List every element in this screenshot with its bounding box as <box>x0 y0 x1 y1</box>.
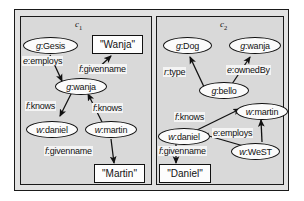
node-w-daniel2[interactable]: w:daniel <box>158 128 210 145</box>
literal-wanja[interactable]: "Wanja" <box>92 35 143 54</box>
edge-label-knows-2: f:knows <box>92 103 123 113</box>
literal-martin[interactable]: "Martin" <box>94 164 145 183</box>
edge-label-knows-1: f:knows <box>25 101 56 111</box>
edge-label-knows-3: f:knows <box>174 112 205 122</box>
node-w-west[interactable]: w:WeST <box>231 143 280 160</box>
context-label-c2: c2 <box>220 19 227 31</box>
literal-daniel[interactable]: "Daniel" <box>159 164 211 183</box>
edge-label-ownedby: e:ownedBy <box>226 65 271 75</box>
node-g-gesis[interactable]: g:Gesis <box>23 37 78 54</box>
edge-label-employs: e:employs <box>22 56 63 66</box>
node-g-wanja2[interactable]: g:wanja <box>229 37 281 54</box>
node-w-martin[interactable]: w:martin <box>85 121 137 138</box>
node-g-wanja[interactable]: g:wanja <box>55 78 107 95</box>
edge-label-givenname-3: f:givenname <box>158 146 207 156</box>
node-g-bello[interactable]: g:bello <box>199 82 249 99</box>
node-g-dog[interactable]: g:Dog <box>163 37 212 54</box>
edge-label-givenname-1: f:givenname <box>78 64 127 74</box>
diagram-canvas: c1 c2 g:Gesis g:wanja w:d <box>0 0 304 201</box>
edge-label-type: r:type <box>163 67 186 77</box>
edge-label-givenname-2: f:givenname <box>44 146 93 156</box>
node-w-daniel[interactable]: w:daniel <box>26 121 78 138</box>
context-label-c1: c1 <box>75 19 82 31</box>
node-w-martin2[interactable]: w:martin <box>236 103 288 120</box>
edge-label-employs-2: e:employs <box>212 128 253 138</box>
